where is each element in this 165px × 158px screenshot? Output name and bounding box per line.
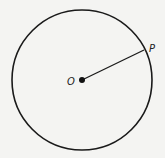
- radius-segment-op: [82, 50, 144, 80]
- point-label: P: [149, 43, 156, 54]
- center-label: O: [67, 76, 75, 87]
- center-point-o: [79, 77, 85, 83]
- circle-diagram: O P: [0, 0, 165, 158]
